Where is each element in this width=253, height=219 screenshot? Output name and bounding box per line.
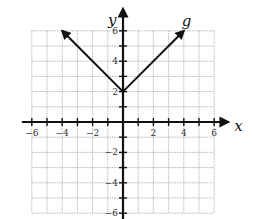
x-tick-label: 4 xyxy=(181,128,187,138)
chart: −6−4−2246642−2−4−6xyg xyxy=(0,0,253,219)
y-tick-label: 4 xyxy=(112,56,118,66)
y-tick-label: −6 xyxy=(105,208,119,218)
x-tick-label: −4 xyxy=(56,128,70,138)
x-axis-label: x xyxy=(234,117,243,135)
y-axis-label: y xyxy=(107,11,117,29)
y-tick-label: −2 xyxy=(105,147,118,157)
x-tick-label: −2 xyxy=(86,128,99,138)
x-tick-label: 2 xyxy=(151,128,157,138)
y-tick-label: −4 xyxy=(105,178,119,188)
series-label: g xyxy=(182,12,192,30)
y-tick-label: 2 xyxy=(112,87,118,97)
x-tick-label: −6 xyxy=(25,128,39,138)
x-tick-label: 6 xyxy=(211,128,217,138)
